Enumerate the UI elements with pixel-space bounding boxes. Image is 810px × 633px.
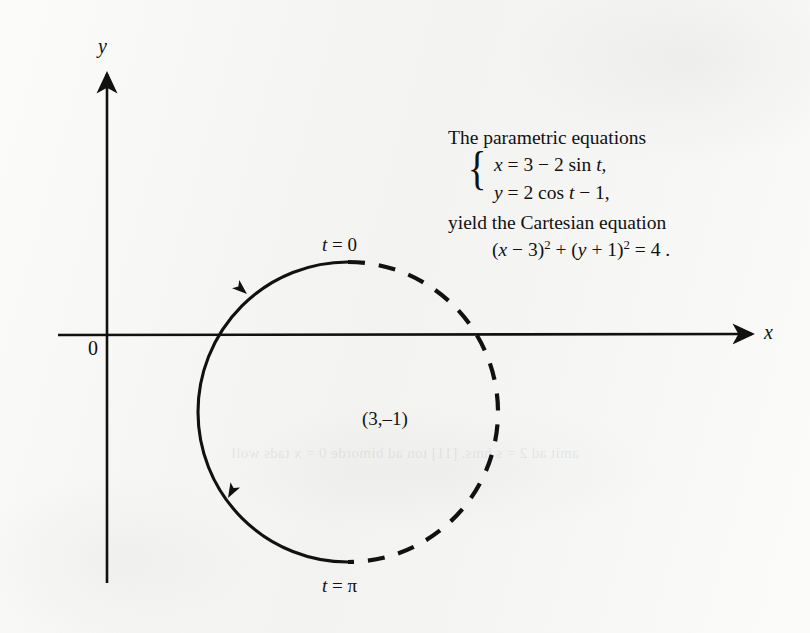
- equation-x-variable: x: [494, 154, 503, 175]
- cartesian-result: = 4 .: [630, 239, 670, 260]
- equation-x-body: = 3 − 2 sin: [503, 154, 597, 175]
- direction-arrow-upper: [232, 280, 251, 298]
- circle-center-label: (3,–1): [362, 408, 408, 430]
- equation-y-suffix: − 1,: [574, 182, 609, 203]
- cartesian-mid-2: + 1): [587, 239, 624, 260]
- parametric-circle-figure: [0, 0, 810, 633]
- equation-x: x = 3 − 2 sin t,: [494, 151, 606, 178]
- cartesian-plus: + (: [551, 239, 578, 260]
- cartesian-variable-x: x: [499, 239, 508, 260]
- t-start-value: = 0: [327, 234, 357, 255]
- equation-y: y = 2 cos t − 1,: [494, 179, 610, 206]
- cartesian-equation: (x − 3)2 + (y + 1)2 = 4 .: [492, 236, 670, 263]
- cartesian-variable-y: y: [578, 239, 587, 260]
- figure-page: amit ad 2 = s hms. [11] ton ad bimorde 0…: [0, 0, 810, 633]
- x-axis-label: x: [764, 321, 773, 344]
- curve-start-label: t = 0: [322, 234, 357, 256]
- cartesian-mid-1: − 3): [507, 239, 544, 260]
- equation-x-suffix: ,: [602, 154, 607, 175]
- curve-end-label: t = π: [322, 575, 357, 597]
- origin-label: 0: [88, 337, 98, 360]
- y-axis-label: y: [98, 35, 107, 58]
- equation-y-body: = 2 cos: [503, 182, 569, 203]
- circle-solid-arc: [198, 262, 348, 562]
- equation-y-variable: y: [494, 182, 503, 203]
- note-line-cartesian-equation: yield the Cartesian equation: [448, 209, 666, 236]
- x-axis: [58, 334, 752, 335]
- t-end-value: = π: [327, 575, 357, 596]
- equation-brace: {: [468, 146, 487, 192]
